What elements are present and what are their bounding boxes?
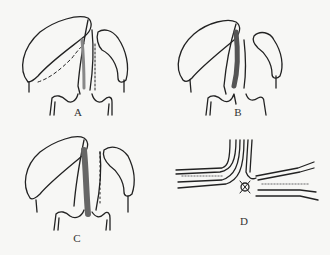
panel-label-a: A	[68, 106, 88, 118]
panel-a-drawing	[23, 17, 128, 115]
panel-label-d: D	[234, 215, 254, 227]
panel-b-drawing	[178, 21, 282, 116]
panel-d-drawing	[176, 140, 318, 200]
panel-c-drawing	[25, 137, 134, 230]
panel-label-c: C	[67, 232, 87, 244]
diagram-svg	[0, 0, 330, 255]
panel-label-b: B	[228, 106, 248, 118]
